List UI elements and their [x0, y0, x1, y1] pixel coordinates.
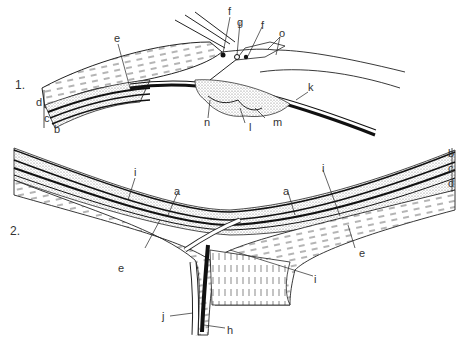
label-c-fig2: c — [448, 162, 454, 174]
label-h-fig2: h — [227, 324, 233, 336]
label-d-fig1: d — [36, 96, 42, 108]
label-m-fig1: m — [273, 116, 282, 128]
anatomical-diagram: 1. e f g f o d c b n l m k 2. i a e a i … — [0, 0, 463, 347]
figure-2 — [14, 148, 455, 335]
label-g-fig1: g — [237, 16, 243, 28]
label-d-fig2: d — [448, 177, 454, 189]
label-e-right-fig2: e — [359, 247, 365, 259]
label-e-left-fig2: e — [118, 262, 124, 274]
label-o-fig1: o — [279, 27, 285, 39]
label-l-fig1: l — [249, 121, 251, 133]
label-e-fig1: e — [114, 32, 120, 44]
figure-1-number: 1. — [15, 78, 25, 92]
label-a-right-fig2: a — [283, 185, 290, 197]
label-n-fig1: n — [204, 116, 210, 128]
figure-1 — [42, 12, 405, 135]
label-j-fig2: j — [161, 310, 164, 322]
label-b-fig1: b — [54, 123, 60, 135]
label-f2-fig1: f — [261, 19, 265, 31]
label-i-left-fig2: i — [134, 166, 136, 178]
label-c-fig1: c — [44, 112, 50, 124]
label-k-fig1: k — [308, 81, 314, 93]
label-i-right-fig2: i — [322, 162, 324, 174]
label-a-left-fig2: a — [174, 185, 181, 197]
label-i-lower-fig2: i — [314, 273, 316, 285]
figure-2-number: 2. — [10, 224, 20, 238]
label-b-fig2: b — [448, 147, 454, 159]
label-f1-fig1: f — [228, 5, 232, 17]
